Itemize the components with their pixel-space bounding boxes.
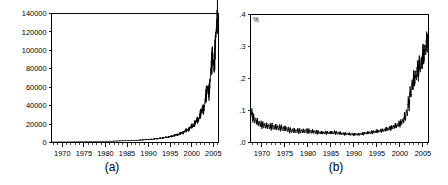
y-tick-label: 100000 bbox=[22, 46, 47, 55]
chart-b-series-group bbox=[251, 32, 428, 136]
x-tick-label: 2000 bbox=[184, 149, 200, 158]
y-tick-label: 80000 bbox=[26, 64, 47, 73]
chart-b-yticks: .0.1.2.3.4 bbox=[239, 10, 250, 147]
x-tick-label: 1985 bbox=[323, 149, 339, 158]
x-tick-label: 1985 bbox=[119, 149, 135, 158]
x-tick-label: 1990 bbox=[346, 149, 362, 158]
chart-b-xticks: 19701975198019851990199520002005 bbox=[253, 143, 431, 158]
y-tick-label: .3 bbox=[239, 42, 245, 51]
panel-a-caption: (a) bbox=[0, 160, 224, 174]
y-tick-label: .1 bbox=[239, 106, 245, 115]
x-tick-label: 1980 bbox=[300, 149, 316, 158]
x-tick-label: 1995 bbox=[162, 149, 178, 158]
x-tick-label: 1980 bbox=[97, 149, 113, 158]
y-tick-label: 140000 bbox=[22, 9, 47, 18]
x-tick-label: 1975 bbox=[76, 149, 92, 158]
y-tick-label: 40000 bbox=[26, 101, 47, 110]
chart-a-yticks: 020000400006000080000100000120000140000 bbox=[22, 9, 52, 147]
panel-b-caption: (b) bbox=[224, 160, 448, 174]
x-tick-label: 2000 bbox=[392, 149, 408, 158]
x-tick-label: 2005 bbox=[205, 149, 221, 158]
chart-a-svg: 020000400006000080000100000120000140000 … bbox=[0, 0, 224, 160]
x-tick-label: 1990 bbox=[140, 149, 156, 158]
panel-a: 020000400006000080000100000120000140000 … bbox=[0, 0, 224, 185]
y-tick-label: 0 bbox=[42, 138, 46, 147]
y-tick-label: .4 bbox=[239, 10, 245, 19]
chart-b-svg: % .0.1.2.3.4 197019751980198519901995200… bbox=[224, 0, 448, 160]
y-tick-label: 20000 bbox=[26, 120, 47, 129]
panel-b: % .0.1.2.3.4 197019751980198519901995200… bbox=[224, 0, 448, 185]
x-tick-label: 1975 bbox=[277, 149, 293, 158]
x-tick-label: 1970 bbox=[254, 149, 270, 158]
series-line-level bbox=[52, 0, 218, 142]
chart-a-axes bbox=[52, 14, 219, 143]
chart-a-xticks: 19701975198019851990199520002005 bbox=[54, 143, 222, 158]
figure-container: 020000400006000080000100000120000140000 … bbox=[0, 0, 448, 185]
percent-unit-label: % bbox=[253, 16, 259, 23]
y-tick-label: 60000 bbox=[26, 83, 47, 92]
series-line-share bbox=[251, 32, 428, 136]
y-tick-label: 120000 bbox=[22, 28, 47, 37]
x-tick-label: 1970 bbox=[54, 149, 70, 158]
chart-a-series-group bbox=[52, 0, 218, 142]
axis-a-left-top-border bbox=[52, 14, 219, 143]
y-tick-label: .0 bbox=[239, 138, 245, 147]
x-tick-label: 1995 bbox=[369, 149, 385, 158]
y-tick-label: .2 bbox=[239, 74, 245, 83]
x-tick-label: 2005 bbox=[415, 149, 431, 158]
